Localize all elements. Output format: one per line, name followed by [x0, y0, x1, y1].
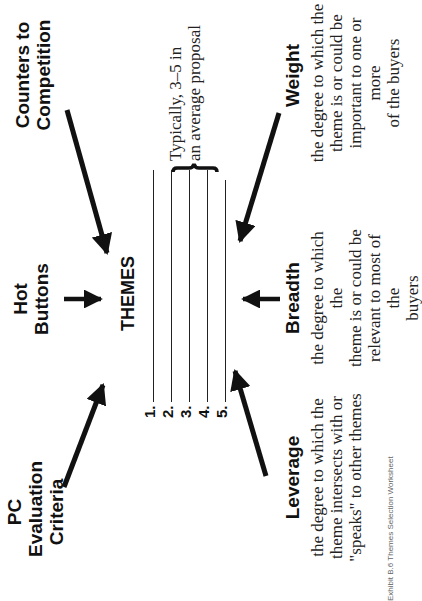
note-line: an average proposal [185, 11, 204, 161]
label-line: PC [4, 467, 25, 557]
blank-line[interactable] [224, 180, 226, 402]
criterion-description: the degree to which the theme is or coul… [308, 223, 422, 373]
criterion-weight: Weight the degree to which the theme is … [282, 0, 403, 167]
themes-label: THEMES [118, 261, 139, 331]
criterion-description: the degree to which the theme intersects… [308, 390, 365, 565]
criterion-title: Leverage [282, 390, 303, 565]
label-line: Competition [33, 15, 54, 135]
blank-line[interactable] [188, 170, 190, 402]
note-line: Typically, 3–5 in [166, 11, 185, 161]
theme-slot-3: 3. [176, 170, 194, 418]
theme-slot-1: 1. [140, 170, 158, 418]
arrow-weight [240, 113, 279, 241]
input-pc-evaluation-criteria: PC Evaluation Criteria [4, 467, 67, 557]
criterion-title: Breadth [282, 223, 303, 373]
blank-line[interactable] [152, 170, 154, 402]
blank-line[interactable] [206, 170, 208, 402]
label-line: Evaluation [25, 467, 46, 557]
brace-note: Typically, 3–5 in an average proposal [166, 11, 204, 161]
label-line: Criteria [46, 467, 67, 557]
blank-line[interactable] [170, 170, 172, 402]
criterion-leverage: Leverage the degree to which the theme i… [282, 390, 365, 565]
arrow-pc-evaluation [64, 385, 103, 487]
arrow-counters [67, 110, 107, 253]
theme-slots-list: 1. 2. 3. 4. 5. [140, 158, 232, 418]
label-line: Hot [10, 263, 31, 335]
theme-slot-5: 5. [212, 180, 230, 418]
input-hot-buttons: Hot Buttons [10, 263, 52, 335]
criterion-description: the degree to which the theme is or coul… [308, 0, 403, 167]
label-line: Counters to [12, 15, 33, 135]
criterion-title: Weight [282, 0, 303, 167]
criterion-breadth: Breadth the degree to which the theme is… [282, 223, 422, 373]
input-counters-to-competition: Counters to Competition [12, 15, 54, 135]
theme-slot-4: 4. [194, 170, 212, 418]
theme-slot-2: 2. [158, 170, 176, 418]
arrow-leverage [235, 371, 266, 476]
label-line: Buttons [31, 263, 52, 335]
figure-caption: Exhibit B.6 Themes Selection Worksheet [386, 456, 395, 601]
